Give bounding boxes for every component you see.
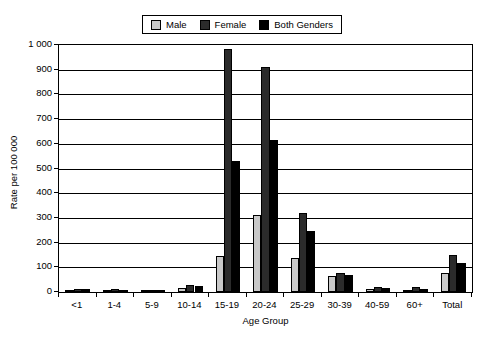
x-axis-tick-mark — [283, 292, 284, 297]
bar — [307, 231, 315, 292]
x-axis-tick-label: Total — [433, 299, 471, 310]
x-axis-tick-mark — [433, 292, 434, 297]
x-axis-label: Age Group — [58, 315, 473, 326]
x-axis-tick-label: 30-39 — [321, 299, 359, 310]
bar — [336, 273, 344, 292]
x-axis-tick-mark — [471, 292, 472, 297]
x-axis-tick-label: 5-9 — [133, 299, 171, 310]
bar — [328, 276, 336, 292]
y-axis-tick-label: 300 — [4, 212, 52, 222]
x-axis-tick-label: 20-24 — [246, 299, 284, 310]
x-axis-tick-label: 25-29 — [283, 299, 321, 310]
x-axis-tick-mark — [133, 292, 134, 297]
x-axis-tick-mark — [246, 292, 247, 297]
y-axis-tick-label: 1 000 — [4, 39, 52, 49]
x-axis-tick-labels: <11-45-910-1415-1920-2425-2930-3940-5960… — [58, 299, 473, 313]
bar — [186, 285, 194, 292]
bar — [299, 213, 307, 292]
plot-area — [58, 44, 473, 293]
bar — [224, 49, 232, 292]
x-axis-tick-mark — [171, 292, 172, 297]
x-axis-tick-mark — [58, 292, 59, 297]
x-axis-tick-marks — [58, 292, 473, 298]
chart-figure: Male Female Both Genders Rate per 100 00… — [0, 0, 485, 348]
x-axis-tick-label: <1 — [58, 299, 96, 310]
y-axis-tick-label: 600 — [4, 138, 52, 148]
bar — [449, 255, 457, 292]
x-axis-tick-mark — [358, 292, 359, 297]
y-axis-tick-label: 0 — [4, 286, 52, 296]
y-axis-tick-label: 900 — [4, 64, 52, 74]
y-axis-tick-label: 500 — [4, 163, 52, 173]
x-axis-tick-label: 60+ — [396, 299, 434, 310]
y-axis-tick-label: 700 — [4, 113, 52, 123]
x-axis-tick-label: 40-59 — [358, 299, 396, 310]
bar — [216, 256, 224, 292]
bar — [457, 263, 465, 292]
y-axis-tick-label: 200 — [4, 237, 52, 247]
x-axis-tick-mark — [321, 292, 322, 297]
x-axis-tick-label: 15-19 — [208, 299, 246, 310]
bar — [232, 161, 240, 292]
x-axis-tick-mark — [208, 292, 209, 297]
bar — [441, 273, 449, 292]
y-axis-tick-label: 800 — [4, 88, 52, 98]
x-axis-tick-label: 1-4 — [96, 299, 134, 310]
bar — [291, 258, 299, 292]
bar — [261, 67, 269, 292]
bar — [270, 140, 278, 292]
y-axis-tick-label: 100 — [4, 261, 52, 271]
x-axis-tick-mark — [396, 292, 397, 297]
x-axis-tick-mark — [96, 292, 97, 297]
bar — [253, 215, 261, 292]
x-axis-tick-label: 10-14 — [171, 299, 209, 310]
bar — [345, 275, 353, 292]
y-axis-tick-label: 400 — [4, 187, 52, 197]
